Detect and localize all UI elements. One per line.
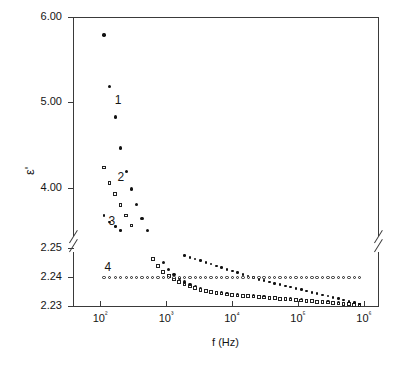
- data-point-series-3: [353, 301, 356, 304]
- data-point-series-4: [125, 276, 128, 279]
- data-point-series-3: [311, 291, 314, 294]
- data-point-series-2: [215, 291, 219, 295]
- data-point-series-3: [327, 295, 330, 298]
- data-point-series-1: [102, 33, 105, 36]
- data-point-series-4: [342, 276, 345, 279]
- data-point-series-4: [337, 276, 340, 279]
- curve-label-2: 2: [118, 170, 125, 184]
- data-point-series-2: [268, 296, 272, 300]
- data-point-series-2: [156, 264, 160, 268]
- data-point-series-4: [241, 276, 244, 279]
- data-point-series-2: [183, 283, 187, 287]
- x-tick-label-0: 10²: [80, 312, 120, 324]
- data-point-series-4: [220, 276, 223, 279]
- data-point-series-2: [130, 224, 134, 228]
- data-point-series-1: [146, 229, 149, 232]
- y-tick-4.00: [68, 188, 74, 189]
- curve-label-4: 4: [105, 260, 112, 274]
- data-point-series-3: [332, 296, 335, 299]
- y-tick-label-2.25: 2.25: [16, 241, 62, 253]
- data-point-series-4: [294, 276, 297, 279]
- data-point-series-4: [119, 276, 122, 279]
- data-point-series-4: [146, 276, 149, 279]
- data-point-series-4: [347, 276, 350, 279]
- data-point-series-2: [326, 301, 330, 305]
- right-spine-upper: [378, 17, 379, 236]
- data-point-series-3: [305, 290, 308, 293]
- data-point-series-4: [247, 276, 250, 279]
- data-point-series-2: [305, 299, 309, 303]
- data-point-series-2: [284, 297, 288, 301]
- data-point-series-2: [246, 294, 250, 298]
- data-point-series-2: [108, 181, 112, 185]
- data-point-series-1: [119, 146, 122, 149]
- data-point-series-2: [102, 166, 106, 170]
- data-point-series-1: [125, 170, 128, 173]
- data-point-series-4: [194, 276, 197, 279]
- data-point-series-4: [108, 276, 111, 279]
- data-point-series-2: [204, 289, 208, 293]
- data-point-series-3: [103, 214, 106, 217]
- data-point-series-3: [183, 254, 186, 257]
- permittivity-frequency-chart: ε' f (Hz) 6.005.004.002.252.242.2310²10³…: [0, 0, 399, 383]
- right-spine-lower: [378, 252, 379, 307]
- data-point-series-4: [209, 276, 212, 279]
- data-point-series-1: [135, 203, 138, 206]
- curve-label-1: 1: [115, 93, 122, 107]
- data-point-series-3: [342, 299, 345, 302]
- data-point-series-2: [236, 294, 240, 298]
- data-point-series-2: [209, 290, 213, 294]
- data-point-series-2: [289, 298, 293, 302]
- data-point-series-4: [225, 276, 228, 279]
- data-point-series-3: [337, 297, 340, 300]
- y-tick-6.00: [68, 17, 74, 18]
- data-point-series-4: [140, 276, 143, 279]
- data-point-series-4: [353, 276, 356, 279]
- data-point-series-2: [278, 297, 282, 301]
- data-point-series-3: [300, 288, 303, 291]
- data-point-series-4: [172, 276, 175, 279]
- data-point-series-3: [210, 263, 213, 266]
- y-tick-2.23: [68, 306, 74, 307]
- data-point-series-2: [220, 292, 224, 296]
- x-tick-label-1: 10³: [146, 312, 186, 324]
- data-point-series-2: [321, 300, 325, 304]
- data-point-series-3: [189, 256, 192, 259]
- data-point-series-2: [241, 294, 245, 298]
- y-tick-label-2.24: 2.24: [16, 270, 62, 282]
- data-point-series-4: [305, 276, 308, 279]
- data-point-series-4: [331, 276, 334, 279]
- data-point-series-2: [225, 293, 229, 297]
- y-tick-5.00: [68, 102, 74, 103]
- data-point-series-2: [315, 300, 319, 304]
- data-point-series-3: [279, 283, 282, 286]
- data-point-series-3: [194, 258, 197, 261]
- data-point-series-2: [257, 295, 261, 299]
- data-point-series-4: [183, 276, 186, 279]
- data-point-series-1: [167, 268, 170, 271]
- data-point-series-3: [220, 266, 223, 269]
- data-point-series-2: [151, 257, 155, 261]
- x-tick-2: [232, 301, 233, 307]
- data-point-series-2: [124, 214, 128, 218]
- data-point-series-4: [135, 276, 138, 279]
- data-point-series-3: [321, 294, 324, 297]
- data-point-series-3: [284, 285, 287, 288]
- data-point-series-4: [151, 276, 154, 279]
- x-tick-4: [364, 301, 365, 307]
- data-point-series-4: [252, 276, 255, 279]
- data-point-series-2: [337, 302, 341, 306]
- data-point-series-1: [130, 187, 133, 190]
- data-point-series-3: [316, 292, 319, 295]
- data-point-series-4: [289, 276, 292, 279]
- data-point-series-2: [342, 302, 346, 306]
- curve-label-3: 3: [109, 214, 116, 228]
- data-point-series-3: [226, 268, 229, 271]
- data-point-series-3: [268, 281, 271, 284]
- data-point-series-3: [199, 259, 202, 262]
- data-point-series-4: [215, 276, 218, 279]
- y-tick-2.24: [68, 277, 74, 278]
- data-point-series-2: [161, 270, 165, 274]
- x-tick-label-3: 10⁵: [278, 312, 318, 324]
- data-point-series-4: [315, 276, 318, 279]
